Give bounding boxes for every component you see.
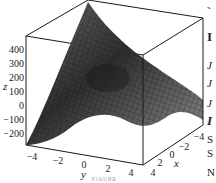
x-axis-label: x	[173, 157, 179, 169]
svg-text:300: 300	[9, 58, 24, 69]
svg-text:−200: −200	[3, 128, 24, 139]
surface-mesh	[26, 2, 203, 145]
svg-text:−2: −2	[179, 141, 190, 152]
side-text-line: J	[207, 58, 216, 72]
svg-text:2: 2	[106, 163, 111, 174]
svg-text:4: 4	[129, 167, 134, 178]
z-axis: 400 300 200 100 0 −100 −200 z	[2, 44, 24, 139]
svg-text:4: 4	[151, 167, 156, 178]
side-text-line: ˜	[207, 4, 216, 18]
side-text-line: J	[207, 96, 216, 110]
side-text-line: J	[207, 76, 216, 90]
side-text-line: S	[207, 146, 216, 160]
z-axis-label: z	[2, 80, 8, 92]
svg-text:400: 400	[9, 44, 24, 55]
svg-text:0: 0	[19, 100, 24, 111]
svg-text:100: 100	[9, 86, 24, 97]
svg-text:200: 200	[9, 72, 24, 83]
side-text-line: I	[207, 30, 216, 44]
figure-caption: FIGURE	[92, 176, 117, 182]
svg-text:−100: −100	[3, 114, 24, 125]
surface-plot: 400 300 200 100 0 −100 −200 z −4 −2 0 2 …	[0, 0, 216, 183]
y-axis: −4 −2 0 2 4 y	[27, 151, 134, 180]
svg-text:−4: −4	[27, 151, 38, 162]
side-text-line: N	[207, 165, 216, 179]
svg-text:−4: −4	[194, 131, 205, 142]
svg-text:−2: −2	[53, 155, 64, 166]
side-text-line: S	[207, 132, 216, 146]
y-axis-label: y	[80, 168, 86, 180]
svg-text:2: 2	[158, 157, 163, 168]
side-text-line: I	[207, 114, 216, 128]
